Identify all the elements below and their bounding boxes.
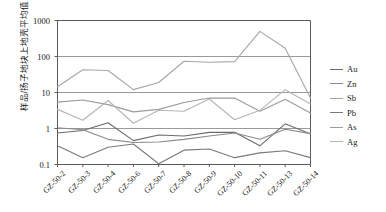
legend-item-zn: Zn (330, 77, 386, 92)
legend-label: Sb (347, 94, 356, 103)
series-line-pb (58, 144, 311, 164)
legend-swatch-icon (330, 98, 343, 99)
legend-swatch-icon (330, 141, 343, 142)
legend-swatch-icon (330, 127, 343, 128)
plot-area (0, 0, 386, 212)
legend-swatch-icon (330, 112, 343, 113)
legend-label: Ag (347, 138, 357, 147)
series-line-sb (58, 31, 311, 98)
legend-label: As (347, 123, 356, 132)
legend-item-sb: Sb (330, 91, 386, 106)
series-line-ag (58, 90, 311, 124)
legend-label: Zn (347, 80, 356, 89)
legend-swatch-icon (330, 83, 343, 84)
chart-legend: AuZnSbPbAsAg (330, 62, 386, 149)
chart-figure: 样品/扬子地块上地壳平均值 10001001010.1 GZ-50-2GZ-50… (0, 0, 386, 212)
legend-item-pb: Pb (330, 106, 386, 121)
legend-item-ag: Ag (330, 135, 386, 150)
legend-swatch-icon (330, 69, 343, 70)
legend-label: Au (347, 65, 357, 74)
legend-item-au: Au (330, 62, 386, 77)
legend-item-as: As (330, 120, 386, 135)
legend-label: Pb (347, 109, 356, 118)
